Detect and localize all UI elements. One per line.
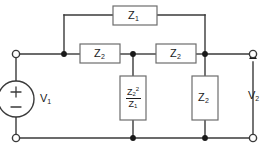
input-terminal-bottom[interactable]	[12, 134, 19, 141]
junction-node-a	[61, 51, 67, 57]
input-terminal-top[interactable]	[12, 50, 19, 57]
junction-node-b	[130, 51, 136, 57]
label-z2-shunt-right: Z2	[198, 92, 209, 104]
voltage-source-symbol	[0, 81, 34, 117]
label-source-v1: V1	[40, 93, 51, 105]
junction-node-e-bottom	[202, 135, 208, 141]
junction-node-d-bottom	[130, 135, 136, 141]
label-z2sq-over-z1-shunt: Z22 Z1	[123, 86, 143, 109]
fraction-numerator: Z22	[123, 86, 143, 98]
label-z2-series-right: Z2	[170, 48, 181, 60]
circuit-diagram: Z1 Z2 Z2 Z22 Z1 Z2 V1 V2	[0, 0, 270, 160]
junction-node-c	[202, 51, 208, 57]
fraction-denominator: Z1	[123, 99, 143, 109]
output-terminal-bottom[interactable]	[249, 134, 256, 141]
label-z2-series-left: Z2	[94, 48, 105, 60]
label-output-v2: V2	[248, 90, 259, 102]
label-z1-bridge: Z1	[128, 10, 139, 22]
output-terminal-top[interactable]	[249, 50, 256, 57]
schematic-canvas	[0, 0, 270, 160]
